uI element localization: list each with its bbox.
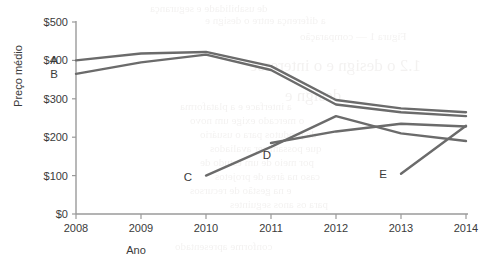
series-label-a: A (50, 54, 58, 66)
x-axis-title: Ano (126, 244, 146, 256)
line-chart: $0$100$200$300$400$500 20082009201020112… (0, 0, 490, 264)
x-axis-tick-label: 2012 (324, 222, 348, 234)
x-axis-tick-label: 2008 (64, 222, 88, 234)
x-axis-tick-label: 2013 (389, 222, 413, 234)
series-line-a (76, 52, 466, 112)
y-axis-tick-label: $0 (56, 208, 68, 220)
y-axis-tick-label: $500 (44, 16, 68, 28)
series-labels: ABCDE (50, 54, 387, 182)
x-axis-tick-label: 2011 (259, 222, 283, 234)
y-axis-tick-label: $100 (44, 170, 68, 182)
x-axis-tick-label: 2010 (194, 222, 218, 234)
series-label-e: E (379, 168, 387, 180)
series-label-d: D (263, 149, 271, 161)
x-axis-tick-label: 2014 (454, 222, 478, 234)
x-axis-tick-label: 2009 (129, 222, 153, 234)
y-axis: $0$100$200$300$400$500 (44, 16, 76, 220)
x-axis: 2008200920102011201220132014 (64, 214, 478, 234)
y-axis-title: Preço médio (12, 45, 24, 107)
chart-canvas: $0$100$200$300$400$500 20082009201020112… (0, 0, 490, 264)
series-line-e (401, 126, 466, 174)
y-axis-tick-label: $300 (44, 93, 68, 105)
y-axis-tick-label: $200 (44, 131, 68, 143)
series-label-c: C (184, 171, 192, 183)
series-label-b: B (50, 68, 58, 80)
series-line-b (76, 55, 466, 116)
